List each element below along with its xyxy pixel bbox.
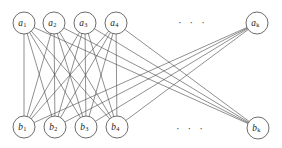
graph-node-a2[interactable]: a2 — [43, 12, 65, 34]
graph-node-bk[interactable]: bk — [247, 117, 269, 139]
graph-edge — [116, 34, 117, 116]
graph-node-b2[interactable]: b2 — [44, 116, 66, 138]
graph-edge — [95, 29, 247, 122]
graph-node-b4[interactable]: b4 — [106, 116, 128, 138]
graph-node-a4[interactable]: a4 — [105, 12, 127, 34]
node-subscript-b3: 3 — [85, 126, 88, 133]
graph-node-b1[interactable]: b1 — [13, 116, 35, 138]
graph-canvas: a1a2a3a4akb1b2b3b4bk — [0, 0, 282, 148]
graph-node-ak[interactable]: ak — [246, 12, 268, 34]
graph-edge — [65, 28, 247, 122]
graph-node-a1[interactable]: a1 — [13, 12, 35, 34]
graph-figure: a1a2a3a4akb1b2b3b4bk · · ·· · · — [0, 0, 282, 148]
graph-edge — [89, 34, 113, 117]
node-subscript-b2: 2 — [54, 126, 57, 133]
bottom-ellipsis: · · · — [176, 123, 206, 134]
graph-node-b3[interactable]: b3 — [75, 116, 97, 138]
top-ellipsis: · · · — [178, 17, 208, 28]
graph-edge — [94, 29, 248, 123]
graph-node-a3[interactable]: a3 — [74, 12, 96, 34]
node-subscript-b1: 1 — [23, 126, 26, 133]
node-subscript-a2: 2 — [53, 22, 56, 29]
node-subscript-a1: 1 — [23, 22, 26, 29]
node-subscript-a3: 3 — [84, 22, 87, 29]
edge-layer — [24, 27, 249, 123]
